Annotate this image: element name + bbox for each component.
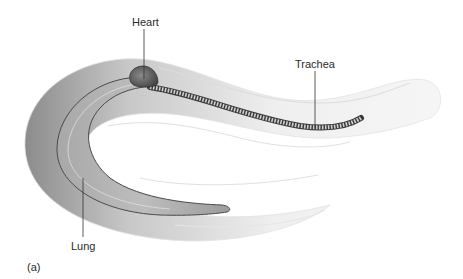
panel-label: (a) [27,261,40,273]
heart-label: Heart [132,16,159,28]
lung-label: Lung [71,240,95,252]
body-contour-inner-2 [140,175,318,185]
respiratory-diagram [0,0,463,279]
trachea-label: Trachea [295,58,335,70]
